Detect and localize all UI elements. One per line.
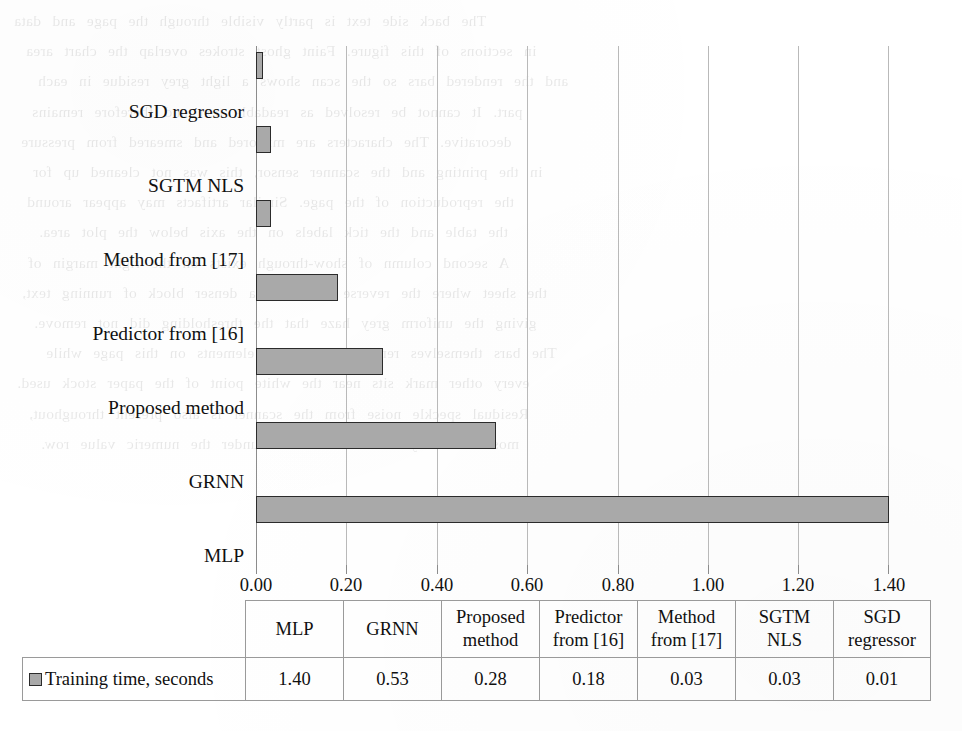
table-header-grnn-line1: GRNN (366, 619, 418, 639)
value-axis-tick-labels: 0.00 0.20 0.40 0.60 0.80 1.00 1.20 1.40 (0, 574, 962, 600)
category-label-method-17: Method from [17] (103, 250, 244, 270)
bar-proposed-method (256, 348, 383, 375)
category-axis-labels: SGD regressor SGTM NLS Method from [17] … (0, 46, 244, 565)
tickmark-0.80 (618, 565, 619, 574)
category-label-mlp: MLP (204, 546, 244, 566)
table-header-mlp: MLP (246, 601, 344, 658)
tick-label-0.80: 0.80 (602, 574, 634, 596)
legend-entry-training-time: Training time, seconds (23, 658, 246, 701)
bar-sgd-regressor (256, 52, 263, 79)
table-value-predictor-16: 0.18 (540, 658, 638, 701)
legend-swatch-icon (29, 673, 42, 686)
tickmark-1.00 (708, 565, 709, 574)
gridline-0.60 (527, 46, 528, 565)
gridline-1.40 (888, 46, 889, 565)
plot-area (256, 46, 889, 565)
tickmark-0.20 (346, 565, 347, 574)
tickmark-1.20 (798, 565, 799, 574)
tick-label-1.40: 1.40 (873, 574, 905, 596)
table-header-sgd-regressor: SGD regressor (834, 601, 931, 658)
gridline-0.40 (437, 46, 438, 565)
table-header-grnn: GRNN (344, 601, 442, 658)
table-corner-cell (23, 601, 246, 658)
tick-label-0.00: 0.00 (240, 574, 272, 596)
legend-label: Training time, seconds (45, 669, 213, 689)
bar-row-predictor-16 (256, 274, 889, 301)
table-header-mlp-line1: MLP (275, 619, 313, 639)
table-header-method-17-line2: from [17] (651, 630, 722, 650)
table-header-predictor-16: Predictor from [16] (540, 601, 638, 658)
table-value-row: Training time, seconds 1.40 0.53 0.28 0.… (23, 658, 931, 701)
tickmark-0.40 (437, 565, 438, 574)
table-value-mlp: 1.40 (246, 658, 344, 701)
table-header-row: MLP GRNN Proposed method Predictor from … (23, 601, 931, 658)
table-header-proposed-method-line1: Proposed (456, 607, 525, 627)
table-header-sgd-regressor-line1: SGD (863, 607, 900, 627)
chart-data-table: MLP GRNN Proposed method Predictor from … (22, 600, 931, 701)
category-label-proposed-method: Proposed method (108, 398, 244, 418)
category-label-sgd-regressor: SGD regressor (129, 102, 244, 122)
gridline-1.00 (708, 46, 709, 565)
bar-grnn (256, 422, 496, 449)
tick-label-0.20: 0.20 (330, 574, 362, 596)
bar-method-17 (256, 200, 271, 227)
gridline-1.20 (798, 46, 799, 565)
table-header-predictor-16-line2: from [16] (553, 630, 624, 650)
table-header-sgtm-nls-line2: NLS (767, 630, 802, 650)
bar-row-grnn (256, 422, 889, 449)
category-label-predictor-16: Predictor from [16] (92, 324, 244, 344)
tick-label-0.60: 0.60 (511, 574, 543, 596)
tick-label-1.20: 1.20 (782, 574, 814, 596)
bar-mlp (256, 496, 889, 523)
bar-row-sgd-regressor (256, 52, 889, 79)
table-value-grnn: 0.53 (344, 658, 442, 701)
table-header-proposed-method: Proposed method (442, 601, 540, 658)
table-value-sgd-regressor: 0.01 (834, 658, 931, 701)
gridline-0.80 (618, 46, 619, 565)
tick-label-1.00: 1.00 (692, 574, 724, 596)
category-label-sgtm-nls: SGTM NLS (148, 176, 244, 196)
table-header-method-17-line1: Method (658, 607, 716, 627)
bar-row-proposed-method (256, 348, 889, 375)
table-value-sgtm-nls: 0.03 (736, 658, 834, 701)
bar-row-sgtm-nls (256, 126, 889, 153)
table-header-sgtm-nls: SGTM NLS (736, 601, 834, 658)
bar-predictor-16 (256, 274, 338, 301)
table-value-proposed-method: 0.28 (442, 658, 540, 701)
table-header-sgd-regressor-line2: regressor (848, 630, 916, 650)
table-header-sgtm-nls-line1: SGTM (759, 607, 810, 627)
axis-tick-marks (256, 565, 889, 574)
tickmark-0.60 (527, 565, 528, 574)
table-header-proposed-method-line2: method (463, 630, 519, 650)
tickmark-1.40 (888, 565, 889, 574)
table-value-method-17: 0.03 (638, 658, 736, 701)
bar-row-mlp (256, 496, 889, 523)
bar-row-method-17 (256, 200, 889, 227)
gridline-0.00 (256, 46, 257, 565)
tickmark-0.00 (256, 565, 257, 574)
category-label-grnn: GRNN (189, 472, 244, 492)
table-header-predictor-16-line1: Predictor (555, 607, 623, 627)
bar-sgtm-nls (256, 126, 271, 153)
tick-label-0.40: 0.40 (421, 574, 453, 596)
gridline-0.20 (346, 46, 347, 565)
table-header-method-17: Method from [17] (638, 601, 736, 658)
